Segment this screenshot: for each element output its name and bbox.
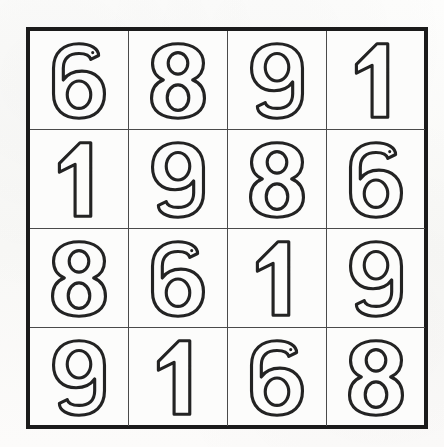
grid-cell-r1c1[interactable]: 6 bbox=[30, 31, 129, 130]
grid-cell-r3c1[interactable]: 8 bbox=[30, 229, 129, 328]
grid-cell-r2c1[interactable]: 1 bbox=[30, 130, 129, 229]
page-title: 4x4 Number Grid Puzzle bbox=[0, 0, 1, 1]
digit-1-glyph bbox=[30, 130, 128, 228]
digit-9-glyph bbox=[30, 328, 128, 426]
grid-cell-r2c3[interactable]: 8 bbox=[228, 130, 327, 229]
digit-6-glyph bbox=[30, 31, 128, 129]
digit-6-glyph bbox=[129, 229, 227, 327]
grid-cell-r1c4[interactable]: 1 bbox=[327, 31, 425, 130]
grid-cell-r4c2[interactable]: 1 bbox=[129, 328, 228, 426]
grid-table[interactable]: 6891198686199168 bbox=[30, 31, 424, 425]
digit-8-glyph bbox=[30, 229, 128, 327]
puzzle-root: 6891198686199168 4x4 Number Grid Puzzle bbox=[0, 0, 444, 447]
digit-8-glyph bbox=[228, 130, 326, 228]
grid-cell-r2c2[interactable]: 9 bbox=[129, 130, 228, 229]
digit-1-glyph bbox=[228, 229, 326, 327]
grid-cell-r4c1[interactable]: 9 bbox=[30, 328, 129, 426]
grid-cell-r4c3[interactable]: 6 bbox=[228, 328, 327, 426]
grid-cell-r3c4[interactable]: 9 bbox=[327, 229, 425, 328]
digit-8-glyph bbox=[129, 31, 227, 129]
digit-1-glyph bbox=[327, 31, 425, 129]
grid-cell-r3c3[interactable]: 1 bbox=[228, 229, 327, 328]
digit-8-glyph bbox=[327, 328, 425, 426]
digit-6-glyph bbox=[228, 328, 326, 426]
grid-cell-r4c4[interactable]: 8 bbox=[327, 328, 425, 426]
digit-9-glyph bbox=[327, 229, 425, 327]
grid-cell-r1c3[interactable]: 9 bbox=[228, 31, 327, 130]
grid-cell-r2c4[interactable]: 6 bbox=[327, 130, 425, 229]
digit-9-glyph bbox=[228, 31, 326, 129]
grid-cell-r1c2[interactable]: 8 bbox=[129, 31, 228, 130]
digit-9-glyph bbox=[129, 130, 227, 228]
grid-outer-frame: 6891198686199168 bbox=[26, 27, 428, 429]
grid-cell-r3c2[interactable]: 6 bbox=[129, 229, 228, 328]
digit-1-glyph bbox=[129, 328, 227, 426]
digit-6-glyph bbox=[327, 130, 425, 228]
